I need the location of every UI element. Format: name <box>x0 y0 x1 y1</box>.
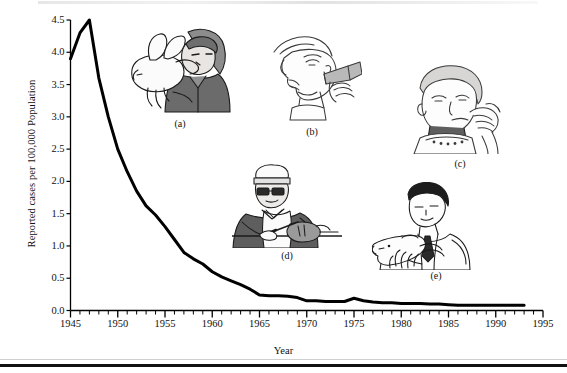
x-tick-label: 1990 <box>476 318 516 329</box>
x-tick-label: 1985 <box>429 318 469 329</box>
rabies-incidence-figure: 0.00.51.01.52.02.53.03.54.04.5 194519501… <box>0 0 567 373</box>
y-axis-title: Reported cases per 100,000 Population <box>26 49 37 279</box>
illustration-c-caption: (c) <box>440 158 480 169</box>
illustration-a-child-with-rabbit: (a) <box>126 22 234 114</box>
illustration-a-caption: (a) <box>160 118 200 129</box>
illustration-b-drinking: (b) <box>262 30 362 122</box>
x-tick-label: 1950 <box>98 318 138 329</box>
x-tick-label: 1955 <box>145 318 185 329</box>
page-bottom-rule <box>0 364 567 367</box>
illustration-c-eating: (c) <box>400 64 508 154</box>
x-axis-title: Year <box>0 345 567 356</box>
y-tick-label: 4.5 <box>31 15 65 26</box>
illustration-d-butcher: (d) <box>232 164 342 248</box>
x-axis-ticks <box>71 311 544 318</box>
x-tick-label: 1960 <box>192 318 232 329</box>
page-bottom-thin-rule <box>0 359 567 360</box>
x-tick-label: 1980 <box>381 318 421 329</box>
x-tick-label: 1945 <box>51 318 91 329</box>
y-tick-label: 0.0 <box>31 305 65 316</box>
x-tick-label: 1965 <box>240 318 280 329</box>
illustration-d-caption: (d) <box>267 250 307 261</box>
illustration-b-caption: (b) <box>292 126 332 137</box>
illustration-e-caption: (e) <box>416 270 456 281</box>
x-tick-label: 1970 <box>287 318 327 329</box>
illustration-e-vet-with-dog: (e) <box>372 182 476 270</box>
x-tick-label: 1995 <box>523 318 563 329</box>
x-tick-label: 1975 <box>334 318 374 329</box>
